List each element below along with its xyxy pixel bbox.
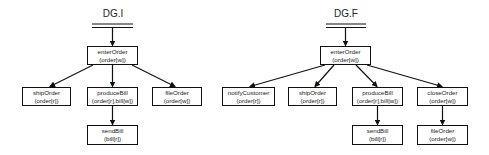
node-enterorder-f: enterOrder (order[w]) bbox=[320, 46, 371, 65]
node-name: fileOrder bbox=[431, 127, 455, 135]
node-shiporder-f: shipOrder (order[r]) bbox=[288, 87, 337, 106]
node-notifycustomer-f: notifyCustomer (order[r]) bbox=[222, 87, 275, 106]
node-name: fileOrder bbox=[165, 89, 189, 97]
node-name: enterOrder bbox=[331, 48, 361, 56]
node-access: (order[w]) bbox=[164, 97, 190, 105]
edge-enterorder-shiporder-i bbox=[50, 65, 93, 87]
edge-enterorder-producebill-f bbox=[356, 65, 377, 87]
node-shiporder-i: shipOrder (order[r]) bbox=[22, 87, 71, 106]
node-enterorder-i: enterOrder (order[w]) bbox=[87, 46, 138, 65]
node-access: (order[r]) bbox=[300, 97, 324, 105]
node-access: (order[r]) bbox=[34, 97, 58, 105]
node-name: notifyCustomer bbox=[228, 89, 270, 97]
node-name: closeOrder bbox=[427, 89, 457, 97]
edge-enterorder-shiporder-f bbox=[315, 65, 334, 87]
diagram-title-dg-f: DG.F bbox=[316, 8, 376, 19]
diagram-title-dg-i: DG.I bbox=[83, 8, 143, 19]
node-fileorder-f: fileOrder (order[w]) bbox=[417, 125, 468, 145]
node-fileorder-i: fileOrder (order[w]) bbox=[152, 87, 202, 106]
node-access: (bill[r]) bbox=[369, 135, 386, 143]
node-access: (bill[r]) bbox=[104, 135, 121, 143]
edge-enterorder-fileorder-i bbox=[132, 65, 175, 87]
edge-enterorder-notifycustomer-f bbox=[250, 65, 325, 87]
node-name: shipOrder bbox=[33, 89, 60, 97]
node-producebill-i: produceBill (order[r],bill[w]) bbox=[87, 87, 138, 106]
node-access: (order[w]) bbox=[429, 135, 455, 143]
node-name: sendBill bbox=[367, 127, 389, 135]
node-name: produceBill bbox=[97, 89, 128, 97]
node-sendbill-f: sendBill (bill[r]) bbox=[352, 125, 403, 145]
node-access: (order[r],bill[w]) bbox=[92, 97, 133, 105]
node-producebill-f: produceBill (order[r],bill[w]) bbox=[352, 87, 403, 106]
node-access: (order[w]) bbox=[332, 56, 358, 64]
node-closeorder-f: closeOrder (order[w]) bbox=[417, 87, 468, 106]
node-access: (order[r],bill[w]) bbox=[357, 97, 398, 105]
node-name: produceBill bbox=[362, 89, 393, 97]
node-access: (order[r]) bbox=[236, 97, 260, 105]
node-access: (order[w]) bbox=[429, 97, 455, 105]
node-name: shipOrder bbox=[299, 89, 326, 97]
edge-enterorder-closeorder-f bbox=[367, 65, 442, 87]
node-sendbill-i: sendBill (bill[r]) bbox=[87, 125, 138, 145]
node-name: sendBill bbox=[102, 127, 124, 135]
node-name: enterOrder bbox=[98, 48, 128, 56]
node-access: (order[w]) bbox=[99, 56, 125, 64]
edges-layer bbox=[0, 0, 489, 155]
